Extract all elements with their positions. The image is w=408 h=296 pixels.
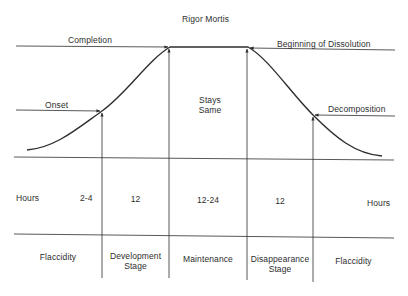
onset-label: Onset [45, 100, 68, 110]
onset-line [16, 110, 100, 111]
stays-same-line1: Stays [190, 95, 230, 105]
stays-same-line2: Same [190, 105, 230, 115]
hours-label-right: Hours [367, 198, 390, 208]
stage-label: Maintenance [169, 254, 247, 264]
stays-same-label: Stays Same [190, 95, 230, 115]
completion-line [16, 46, 168, 47]
stage-flaccidity-end: Flaccidity [313, 256, 394, 266]
row-divider-top [14, 157, 394, 160]
stage-flaccidity-start: Flaccidity [14, 252, 102, 262]
stage-label: Flaccidity [14, 252, 102, 262]
hours-value-disappearance: 12 [247, 196, 313, 206]
stage-label-line1: Development [102, 251, 169, 261]
stage-maintenance: Maintenance [169, 254, 247, 264]
stage-development: Development Stage [102, 251, 169, 271]
hours-label-left: Hours [16, 193, 39, 203]
decomposition-line [315, 115, 395, 116]
stage-label-line2: Stage [247, 264, 313, 274]
hours-value-onset: 2-4 [80, 193, 93, 203]
stage-label-line2: Stage [102, 261, 169, 271]
diagram-title: Rigor Mortis [182, 14, 229, 24]
completion-label: Completion [68, 35, 112, 45]
hours-value-development: 12 [102, 194, 169, 204]
stage-label: Flaccidity [313, 256, 394, 266]
decomposition-label: Decomposition [328, 104, 386, 114]
row-divider-bottom [14, 234, 394, 238]
stage-label-line1: Disappearance [247, 254, 313, 264]
beginning-of-dissolution-label: Beginning of Dissolution [277, 39, 371, 49]
hours-value-maintenance: 12-24 [169, 195, 247, 205]
stage-disappearance: Disappearance Stage [247, 254, 313, 274]
